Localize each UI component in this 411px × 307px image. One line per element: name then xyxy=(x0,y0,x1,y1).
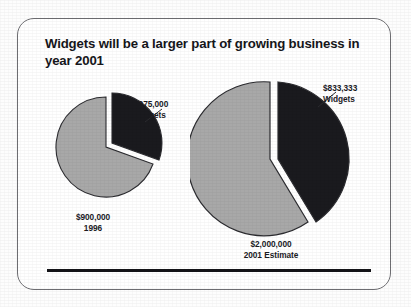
callout-label-widgets-1996: $275,000 Widgets xyxy=(134,99,168,120)
pie-total-value-1996: $900,000 xyxy=(76,212,110,222)
pie-period-2001: 2001 Estimate xyxy=(244,250,299,260)
pie-total-label-1996: $900,0001996 xyxy=(53,212,133,233)
bottom-divider xyxy=(47,269,371,272)
pie-total-value-2001: $2,000,000 xyxy=(250,239,291,249)
slide-canvas: Widgets will be a larger part of growing… xyxy=(0,0,411,307)
page-title: Widgets will be a larger part of growing… xyxy=(45,36,365,69)
callout-label-widgets-2001: $833,333 Widgets xyxy=(323,83,357,104)
pie-period-1996: 1996 xyxy=(84,223,102,233)
pie-total-label-2001: $2,000,0002001 Estimate xyxy=(215,239,327,260)
